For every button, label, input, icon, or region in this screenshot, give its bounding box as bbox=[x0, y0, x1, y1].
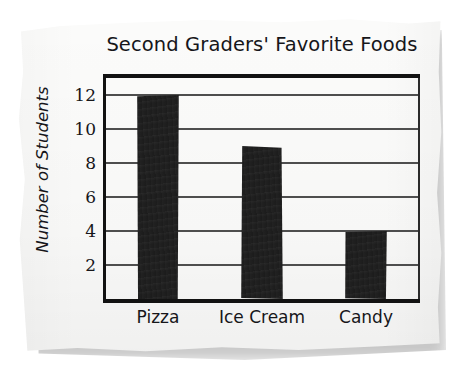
bar-pizza bbox=[137, 95, 179, 299]
y-tick-label-12: 12 bbox=[56, 85, 96, 105]
y-tick-label-2: 2 bbox=[56, 255, 96, 275]
x-label-ice-cream: Ice Cream bbox=[219, 307, 305, 327]
plot-right-edge bbox=[418, 74, 420, 303]
scanned-page: Second Graders' Favorite Foods Number of… bbox=[0, 0, 463, 387]
plot-area bbox=[103, 74, 420, 303]
gridline-12 bbox=[106, 94, 418, 95]
x-axis-line bbox=[103, 299, 420, 303]
bar-texture bbox=[345, 231, 387, 299]
x-axis-category-labels: PizzaIce CreamCandy bbox=[103, 307, 420, 337]
bar-texture bbox=[137, 95, 179, 299]
y-tick-label-6: 6 bbox=[56, 187, 96, 207]
y-axis-line bbox=[103, 74, 106, 303]
y-axis-tick-labels: 24681012 bbox=[52, 74, 96, 303]
bar-candy bbox=[345, 231, 387, 299]
plot-top-edge bbox=[103, 74, 420, 78]
y-axis-title: Number of Students bbox=[33, 70, 52, 270]
y-tick-label-8: 8 bbox=[56, 153, 96, 173]
bar-texture bbox=[241, 146, 283, 299]
x-label-pizza: Pizza bbox=[137, 307, 180, 327]
y-tick-label-4: 4 bbox=[56, 221, 96, 241]
x-label-candy: Candy bbox=[339, 307, 393, 327]
chart-title: Second Graders' Favorite Foods bbox=[92, 33, 432, 56]
bar-ice-cream bbox=[241, 146, 283, 299]
y-tick-label-10: 10 bbox=[56, 119, 96, 139]
